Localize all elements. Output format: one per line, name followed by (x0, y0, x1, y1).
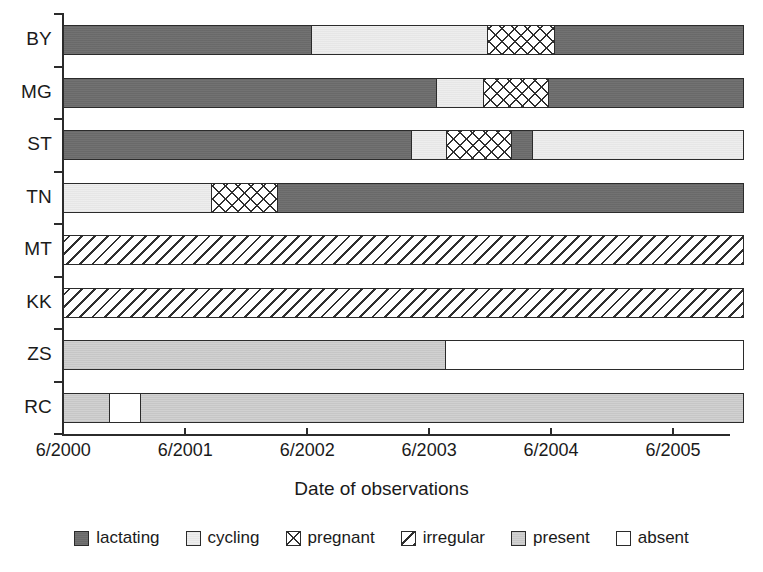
bar-segment-lactating (64, 79, 436, 107)
legend-swatch-pregnant-icon (286, 531, 301, 546)
x-axis-label: 6/2003 (402, 440, 457, 461)
bar-segment-lactating (64, 131, 411, 159)
legend-swatch-absent-icon (616, 531, 631, 546)
bar-row-mt (63, 235, 743, 265)
y-axis-tick (54, 276, 63, 278)
x-axis-tick (672, 428, 674, 436)
bar-row-rc (63, 393, 743, 423)
x-axis-tick (428, 428, 430, 436)
bar-segment-present (64, 341, 445, 369)
legend-item-irregular: irregular (401, 528, 485, 548)
legend-swatch-lactating-icon (74, 531, 89, 546)
legend-item-absent: absent (616, 528, 689, 548)
legend-swatch-irregular-icon (401, 531, 416, 546)
bar-segment-cycling (64, 184, 211, 212)
bar-segment-present (140, 394, 743, 422)
y-axis-tick (54, 171, 63, 173)
bar-segment-present (64, 394, 109, 422)
x-axis-label: 6/2005 (646, 440, 701, 461)
x-axis-label: 6/2001 (158, 440, 213, 461)
x-axis-tick (62, 428, 64, 436)
x-axis-title: Date of observations (0, 478, 763, 500)
bar-segment-pregnant (211, 184, 277, 212)
bar-segment-lactating (277, 184, 743, 212)
y-axis-tick (54, 13, 63, 15)
y-axis-label-kk: KK (0, 291, 52, 313)
y-axis-label-by: BY (0, 28, 52, 50)
bar-segment-cycling (411, 131, 446, 159)
legend-swatch-present-icon (511, 531, 526, 546)
legend-swatch-cycling-icon (186, 531, 201, 546)
x-axis-line (62, 434, 730, 436)
bar-row-kk (63, 288, 743, 318)
observation-timeline-chart: BYMGSTTNMTKKZSRC 6/20006/20016/20026/200… (0, 0, 763, 572)
bar-segment-pregnant (483, 79, 549, 107)
bar-row-by (63, 25, 743, 55)
bar-row-tn (63, 183, 743, 213)
legend-label: irregular (423, 528, 485, 548)
y-axis-label-zs: ZS (0, 343, 52, 365)
x-axis-label: 6/2000 (36, 440, 91, 461)
y-axis-tick (54, 328, 63, 330)
bar-segment-cycling (311, 26, 487, 54)
bar-row-zs (63, 340, 743, 370)
y-axis-label-rc: RC (0, 396, 52, 418)
y-axis-label-mt: MT (0, 238, 52, 260)
legend-label: cycling (208, 528, 260, 548)
bar-segment-lactating (64, 26, 311, 54)
legend-item-pregnant: pregnant (286, 528, 375, 548)
bar-segment-pregnant (487, 26, 554, 54)
y-axis-tick (54, 66, 63, 68)
y-axis-label-st: ST (0, 133, 52, 155)
bar-segment-absent (445, 341, 743, 369)
bar-segment-irregular (64, 236, 742, 264)
chart-legend: lactatingcyclingpregnantirregularpresent… (0, 528, 763, 548)
legend-label: present (533, 528, 590, 548)
y-axis-tick (54, 381, 63, 383)
x-axis-tick (306, 428, 308, 436)
x-axis-tick (550, 428, 552, 436)
bar-segment-lactating (554, 26, 742, 54)
bar-row-mg (63, 78, 743, 108)
y-axis-label-mg: MG (0, 81, 52, 103)
bar-segment-irregular (64, 289, 742, 317)
bar-segment-cycling (532, 131, 742, 159)
legend-item-present: present (511, 528, 590, 548)
bar-segment-lactating (548, 79, 743, 107)
bar-segment-cycling (436, 79, 482, 107)
legend-label: lactating (96, 528, 159, 548)
x-axis-label: 6/2002 (280, 440, 335, 461)
x-axis-tick (184, 428, 186, 436)
x-axis-label: 6/2004 (524, 440, 579, 461)
bar-row-st (63, 130, 743, 160)
legend-label: pregnant (308, 528, 375, 548)
bar-segment-absent (109, 394, 139, 422)
y-axis-tick (54, 223, 63, 225)
bar-segment-lactating (511, 131, 533, 159)
y-axis-label-tn: TN (0, 186, 52, 208)
legend-item-cycling: cycling (186, 528, 260, 548)
y-axis-tick (54, 118, 63, 120)
legend-label: absent (638, 528, 689, 548)
bar-segment-pregnant (446, 131, 510, 159)
legend-item-lactating: lactating (74, 528, 159, 548)
